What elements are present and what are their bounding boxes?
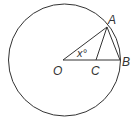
geometry-diagram: A B C O x°: [0, 0, 137, 121]
label-A: A: [107, 13, 116, 27]
label-O: O: [53, 64, 62, 78]
label-B: B: [122, 55, 130, 69]
segment-AC: [96, 27, 107, 60]
label-C: C: [91, 64, 100, 78]
angle-label-x: x°: [76, 47, 88, 59]
